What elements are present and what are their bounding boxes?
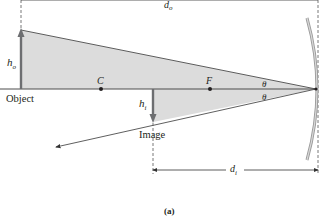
theta-bottom-label: θ xyxy=(262,92,267,102)
concave-mirror-ray-diagram: do C F θ θ ho Object hi Image di (a) xyxy=(0,0,324,218)
object-height-label: ho xyxy=(7,56,17,71)
center-of-curvature-point xyxy=(99,87,103,91)
image-ray-triangle xyxy=(153,89,316,122)
center-label: C xyxy=(97,75,104,86)
image-height-label: hi xyxy=(139,97,147,112)
focal-point xyxy=(208,87,212,91)
figure-caption: (a) xyxy=(164,206,175,216)
mirror-vertex-point xyxy=(314,87,317,90)
image-label: Image xyxy=(139,129,166,140)
theta-top-label: θ xyxy=(262,79,267,89)
focal-label: F xyxy=(205,75,213,86)
object-distance-label: do xyxy=(164,0,173,12)
object-label: Object xyxy=(6,93,34,104)
image-distance-label: di xyxy=(230,163,237,177)
